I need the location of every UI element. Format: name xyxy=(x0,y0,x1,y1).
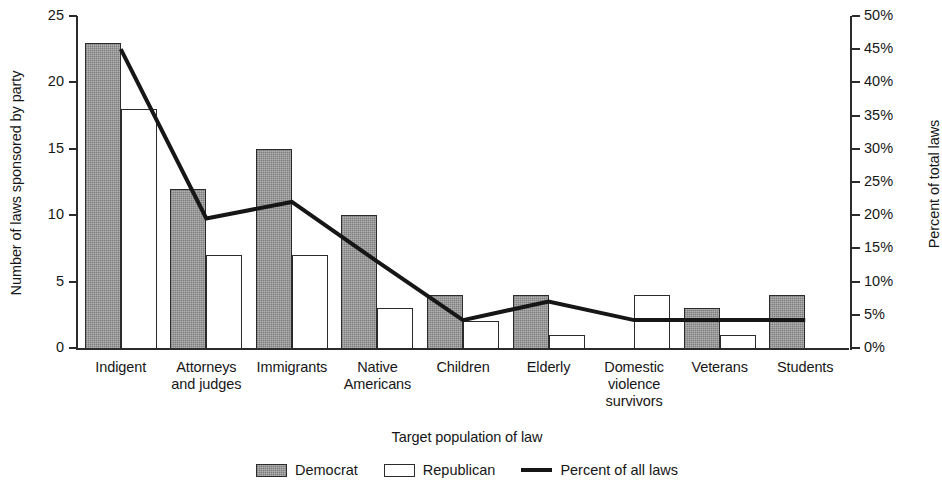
y-axis-line-right xyxy=(850,16,852,350)
y-tick-mark-right xyxy=(852,115,860,117)
bar-republican xyxy=(634,295,670,349)
legend-item-democrat: Democrat xyxy=(256,462,358,478)
bar-democrat xyxy=(427,295,463,349)
y-tick-label-left: 10 xyxy=(20,207,64,222)
bar-republican xyxy=(720,335,756,349)
y-tick-mark-left xyxy=(69,214,77,216)
bar-democrat xyxy=(684,308,720,349)
y-tick-mark-right xyxy=(852,314,860,316)
y-tick-mark-right xyxy=(852,81,860,83)
bar-republican xyxy=(377,308,413,349)
y-tick-label-right: 15% xyxy=(864,240,918,255)
y-tick-label-left: 25 xyxy=(20,8,64,23)
y-tick-label-right: 25% xyxy=(864,174,918,189)
y-tick-mark-left xyxy=(69,347,77,349)
y-tick-mark-right xyxy=(852,281,860,283)
y-tick-label-left: 15 xyxy=(20,141,64,156)
y-tick-label-left: 20 xyxy=(20,74,64,89)
y-tick-label-left: 5 xyxy=(20,274,64,289)
y-tick-mark-right xyxy=(852,214,860,216)
category-label-line: Americans xyxy=(322,376,432,393)
y-tick-label-right: 35% xyxy=(864,108,918,123)
bar-democrat xyxy=(256,149,292,349)
y-tick-label-right: 45% xyxy=(864,41,918,56)
y-tick-label-right: 20% xyxy=(864,207,918,222)
bar-democrat xyxy=(513,295,549,349)
category-label-line: and judges xyxy=(151,376,261,393)
democrat-swatch-icon xyxy=(256,464,287,477)
y-tick-mark-left xyxy=(69,15,77,17)
bar-democrat xyxy=(769,295,805,349)
y-tick-label-left: 0 xyxy=(20,340,64,355)
legend-item-republican: Republican xyxy=(384,462,496,478)
chart-legend: Democrat Republican Percent of all laws xyxy=(0,462,934,478)
category-label-line: survivors xyxy=(579,393,689,410)
legend-label-democrat: Democrat xyxy=(295,462,358,478)
y-tick-mark-left xyxy=(69,148,77,150)
y-tick-label-right: 5% xyxy=(864,307,918,322)
y-tick-mark-left xyxy=(69,281,77,283)
legend-label-republican: Republican xyxy=(423,462,496,478)
y-tick-mark-right xyxy=(852,247,860,249)
x-axis-title: Target population of law xyxy=(0,429,934,445)
percent-line-swatch-icon xyxy=(521,468,552,472)
legend-label-percent-of-all-laws: Percent of all laws xyxy=(560,462,678,478)
republican-swatch-icon xyxy=(384,464,415,477)
y-axis-title-right: Percent of total laws xyxy=(926,34,942,334)
bar-republican xyxy=(292,255,328,349)
bar-democrat xyxy=(170,189,206,349)
bar-democrat xyxy=(341,215,377,349)
y-tick-label-right: 0% xyxy=(864,340,918,355)
category-label-line: violence xyxy=(579,376,689,393)
y-tick-label-right: 30% xyxy=(864,141,918,156)
bar-democrat xyxy=(85,43,121,349)
y-tick-label-right: 50% xyxy=(864,8,918,23)
category-label-line: Students xyxy=(750,359,860,376)
x-axis-category-label: Students xyxy=(750,359,860,376)
bar-republican xyxy=(206,255,242,349)
y-tick-mark-right xyxy=(852,148,860,150)
bar-republican xyxy=(549,335,585,349)
y-tick-label-right: 10% xyxy=(864,274,918,289)
y-tick-mark-right xyxy=(852,347,860,349)
y-tick-mark-right xyxy=(852,48,860,50)
y-tick-label-right: 40% xyxy=(864,74,918,89)
legend-item-percent-line: Percent of all laws xyxy=(521,462,678,478)
bar-republican xyxy=(463,321,499,349)
y-tick-mark-right xyxy=(852,181,860,183)
y-tick-mark-left xyxy=(69,81,77,83)
bar-republican xyxy=(121,109,157,349)
y-axis-line-left xyxy=(76,16,78,350)
y-tick-mark-right xyxy=(852,15,860,17)
